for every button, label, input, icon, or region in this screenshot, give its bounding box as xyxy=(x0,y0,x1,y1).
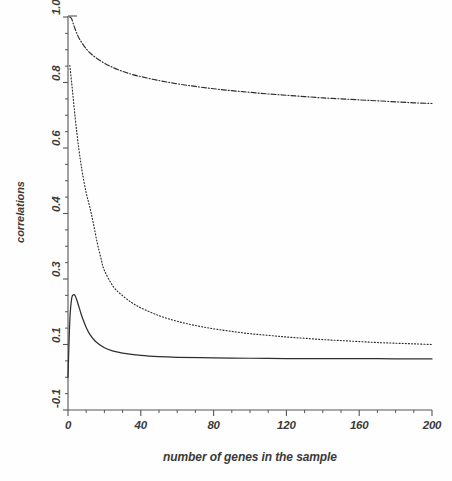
x-tick-label: 160 xyxy=(329,419,389,431)
series-line-1 xyxy=(70,65,432,344)
series-line-2 xyxy=(68,295,432,378)
chart-figure: correlations number of genes in the samp… xyxy=(0,0,452,481)
x-tick-label: 0 xyxy=(38,419,98,431)
y-axis-title: correlations xyxy=(14,170,26,254)
x-tick-label: 80 xyxy=(184,419,244,431)
series-line-0 xyxy=(70,17,432,103)
x-tick-label: 120 xyxy=(256,419,316,431)
x-tick-label: 40 xyxy=(111,419,171,431)
plot-canvas xyxy=(0,0,452,481)
x-axis-title: number of genes in the sample xyxy=(68,450,432,464)
x-tick-label: 200 xyxy=(402,419,452,431)
